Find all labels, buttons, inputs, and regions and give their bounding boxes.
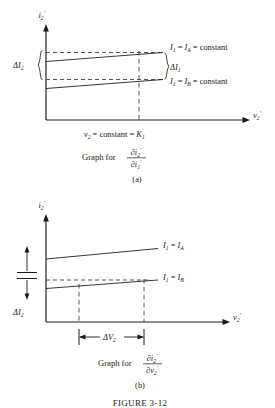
panel-a-caption-text: Graph for	[82, 152, 116, 162]
panel-a-y-axis-label: i2′	[39, 9, 46, 22]
panel-b-curve-lower	[46, 280, 158, 289]
panel-b-caption: Graph for ∂i2′ ∂v2′	[98, 353, 162, 376]
panel-a-right-brace	[165, 53, 169, 79]
panel-a-caption-numerator: ∂i2′	[131, 147, 142, 158]
panel-b-delta-i2-label: ΔI2	[12, 308, 24, 318]
panel-b-caption-numerator: ∂i2′	[147, 353, 158, 364]
panel-a: i2′ v2′ ΔI2 ΔI1 I1 = IA = consta	[12, 9, 262, 184]
panel-a-label-lower-curve: I1 = IB = constant	[169, 77, 228, 87]
panel-a-caption-denominator: ∂i1′	[131, 159, 142, 170]
figure-svg: i2′ v2′ ΔI2 ΔI1 I1 = IA = consta	[0, 0, 275, 408]
panel-b-caption-text: Graph for	[98, 358, 132, 368]
panel-a-x-axis	[46, 117, 250, 123]
panel-b-y-axis-label: i2′	[39, 199, 46, 212]
panel-b-x-axis-label: v2′	[233, 311, 242, 324]
panel-b-label-lower-curve: I1 = IB	[162, 273, 184, 283]
panel-b-delta-i2-arrow	[17, 246, 37, 300]
panel-b-label-upper-curve: I1 = IA	[162, 241, 184, 251]
panel-b-id: (b)	[135, 381, 145, 390]
panel-b-caption-denominator: ∂v2′	[146, 365, 159, 376]
panel-a-delta-i2-label: ΔI2	[12, 61, 24, 71]
figure-container: i2′ v2′ ΔI2 ΔI1 I1 = IA = consta	[0, 0, 275, 408]
panel-a-label-upper-curve: I1 = IA = constant	[169, 43, 228, 53]
panel-b: i2′ v2′ I1 = IA I1 = IB	[12, 199, 242, 390]
panel-a-curve-upper	[46, 53, 163, 62]
panel-a-left-brace	[38, 51, 42, 80]
panel-a-below-axis-note: v2 = constant = K1	[84, 130, 145, 140]
panel-b-y-axis	[43, 214, 49, 322]
panel-b-x-axis	[46, 319, 230, 325]
figure-number: FIGURE 3-12	[113, 398, 168, 408]
panel-a-caption: Graph for ∂i2′ ∂i1′	[82, 147, 146, 170]
panel-b-curve-upper	[46, 249, 158, 260]
panel-a-id: (a)	[132, 175, 142, 184]
panel-a-x-axis-label: v2′	[253, 109, 262, 122]
panel-b-delta-v2-label: ΔV2	[102, 333, 116, 343]
panel-a-y-axis	[43, 24, 49, 120]
panel-a-curve-lower	[46, 80, 163, 89]
panel-a-delta-i1-label: ΔI1	[169, 63, 181, 73]
